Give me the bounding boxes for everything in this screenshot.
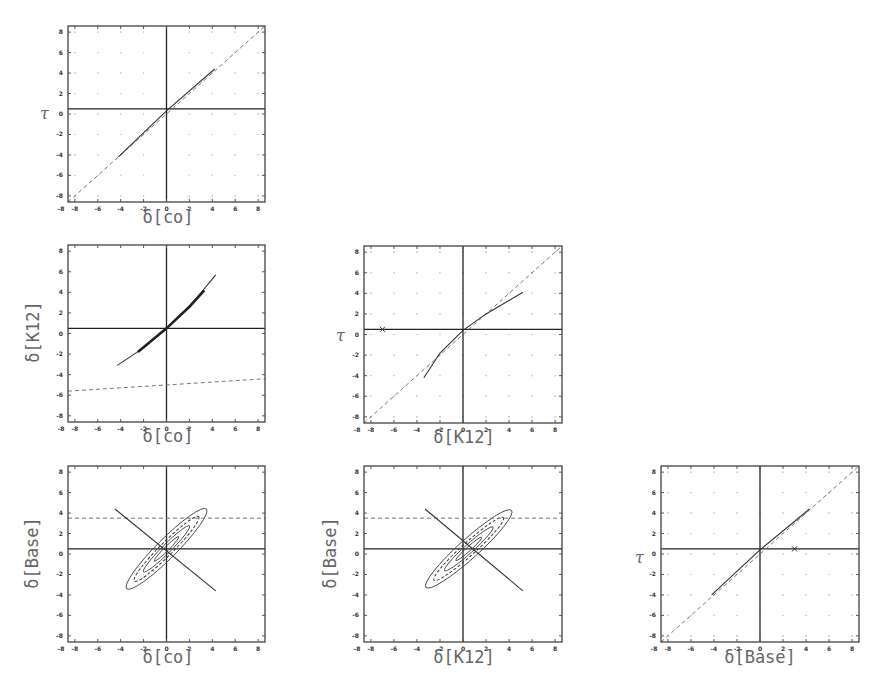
x-tick-label: 0 <box>164 645 168 652</box>
x-tick-label: 4 <box>210 205 214 212</box>
series-line <box>115 509 216 591</box>
y-tick-label: -4 <box>649 591 656 598</box>
y-tick-label: -2 <box>352 351 359 358</box>
y-tick-label: 0 <box>355 331 359 338</box>
x-tick-label: 6 <box>530 426 534 433</box>
y-tick-label: 6 <box>59 489 63 496</box>
x-tick-label: 6 <box>233 645 237 652</box>
x-tick-label: -6 <box>94 425 101 432</box>
y-tick-label: -6 <box>56 611 63 618</box>
y-tick-label: -2 <box>56 350 63 357</box>
y-tick-label: 6 <box>59 49 63 56</box>
y-tick-label: 8 <box>355 248 359 255</box>
panel-co-base: -8-8-6-6-4-4-2-20022446688-8 <box>56 466 265 652</box>
y-tick-label: 6 <box>59 268 63 275</box>
x-tick-label: 6 <box>233 205 237 212</box>
x-tick-label: -6 <box>391 426 398 433</box>
x-tick-label: 8 <box>553 426 557 433</box>
y-tick-label: 8 <box>59 28 63 35</box>
y-tick-label: 4 <box>59 288 63 295</box>
y-tick-label: 0 <box>59 550 63 557</box>
y-tick-label: -4 <box>56 151 63 158</box>
y-tick-label: 2 <box>652 530 656 537</box>
y-tick-label: 2 <box>59 90 63 97</box>
x-tick-label: 4 <box>507 426 511 433</box>
svg-text:-8: -8 <box>354 426 361 433</box>
y-tick-label: -2 <box>649 570 656 577</box>
y-tick-label: -8 <box>352 413 359 420</box>
y-tick-label: 8 <box>355 468 359 475</box>
x-tick-label: 8 <box>256 645 260 652</box>
x-tick-label: 2 <box>187 645 191 652</box>
y-tick-label: 6 <box>355 269 359 276</box>
y-tick-label: 2 <box>355 530 359 537</box>
y-tick-label: 4 <box>355 509 359 516</box>
svg-text:-8: -8 <box>58 645 65 652</box>
x-tick-label: -6 <box>688 645 695 652</box>
x-tick-label: 4 <box>210 645 214 652</box>
y-tick-label: 8 <box>59 468 63 475</box>
x-tick-label: 2 <box>484 645 488 652</box>
x-tick-label: 8 <box>553 645 557 652</box>
y-tick-label: -6 <box>56 391 63 398</box>
x-tick-label: 8 <box>256 205 260 212</box>
x-tick-label: -8 <box>665 645 672 652</box>
y-tick-label: 8 <box>652 468 656 475</box>
y-tick-label: -8 <box>56 192 63 199</box>
y-tick-label: 0 <box>652 550 656 557</box>
y-tick-label: -4 <box>56 371 63 378</box>
x-tick-label: -2 <box>437 645 444 652</box>
y-tick-label: 0 <box>59 110 63 117</box>
y-tick-label: -8 <box>56 632 63 639</box>
y-tick-label: 6 <box>355 489 359 496</box>
x-tick-label: -8 <box>368 645 375 652</box>
y-tick-label: 4 <box>652 509 656 516</box>
x-tick-label: -6 <box>391 645 398 652</box>
x-tick-label: -4 <box>711 645 718 652</box>
x-tick-label: -4 <box>414 645 421 652</box>
x-tick-label: 0 <box>164 425 168 432</box>
x-tick-label: -2 <box>140 645 147 652</box>
svg-text:-8: -8 <box>354 645 361 652</box>
y-tick-label: -6 <box>352 392 359 399</box>
y-tick-label: -8 <box>352 632 359 639</box>
y-tick-label: 4 <box>59 69 63 76</box>
x-tick-label: -4 <box>117 425 124 432</box>
figure-canvas: -8-8-6-6-4-4-2-20022446688-8-8-8-6-6-4-4… <box>0 0 881 699</box>
x-tick-label: -2 <box>140 205 147 212</box>
y-tick-label: 6 <box>652 489 656 496</box>
series-line <box>424 292 523 377</box>
x-tick-label: 6 <box>827 645 831 652</box>
y-tick-label: -2 <box>56 130 63 137</box>
x-tick-label: -4 <box>117 205 124 212</box>
svg-text:-8: -8 <box>58 205 65 212</box>
panel-k12-tau: -8-8-6-6-4-4-2-20022446688-8 <box>352 246 562 433</box>
svg-text:-8: -8 <box>58 425 65 432</box>
x-tick-label: 8 <box>256 425 260 432</box>
x-tick-label: -2 <box>437 426 444 433</box>
y-tick-label: -2 <box>56 570 63 577</box>
x-tick-label: 4 <box>507 645 511 652</box>
x-tick-label: -2 <box>140 425 147 432</box>
y-tick-label: -6 <box>352 611 359 618</box>
x-tick-label: 2 <box>484 426 488 433</box>
panel-base-tau: -8-8-6-6-4-4-2-20022446688-8 <box>649 466 859 652</box>
y-tick-label: -4 <box>56 591 63 598</box>
y-tick-label: -2 <box>352 570 359 577</box>
y-tick-label: 2 <box>355 310 359 317</box>
x-tick-label: 2 <box>187 205 191 212</box>
x-tick-label: -8 <box>368 426 375 433</box>
y-tick-label: 2 <box>59 530 63 537</box>
x-tick-label: -8 <box>72 425 79 432</box>
panel-k12-base: -8-8-6-6-4-4-2-20022446688-8 <box>352 466 562 652</box>
series-line-dense <box>138 290 204 352</box>
panel-co-k12: -8-8-6-6-4-4-2-20022446688-8 <box>56 245 265 432</box>
y-tick-label: 8 <box>59 247 63 254</box>
x-tick-label: -2 <box>734 645 741 652</box>
x-tick-label: 4 <box>210 425 214 432</box>
x-tick-label: 6 <box>530 645 534 652</box>
y-tick-label: -4 <box>352 591 359 598</box>
x-tick-label: -6 <box>94 645 101 652</box>
svg-text:-8: -8 <box>651 645 658 652</box>
x-tick-label: 0 <box>461 645 465 652</box>
